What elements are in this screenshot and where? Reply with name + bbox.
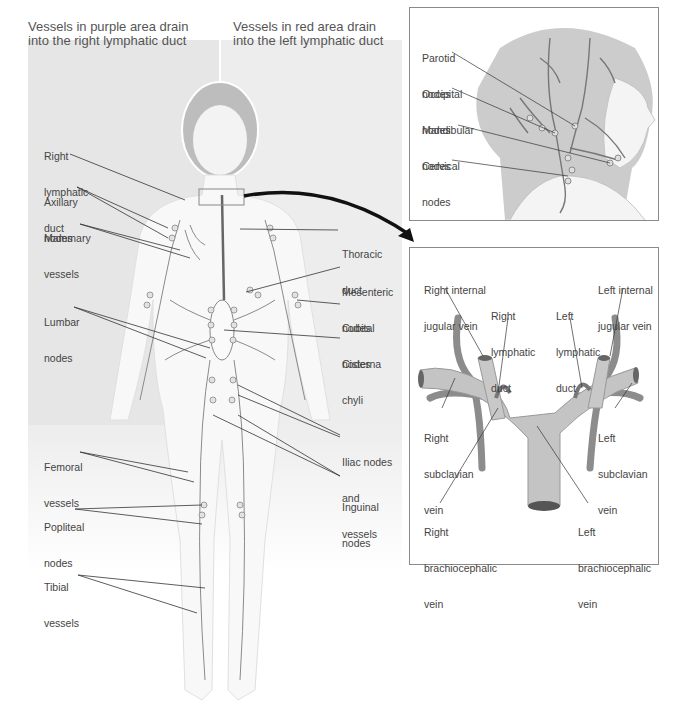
label-line: Mesenteric bbox=[342, 286, 393, 298]
label-line: chyli bbox=[342, 394, 381, 406]
label-right-internal-jugular-vein: Right internal jugular vein bbox=[424, 260, 486, 356]
label-line: Tibial bbox=[44, 581, 79, 593]
label-lumbar-nodes: Lumbar nodes bbox=[44, 292, 80, 376]
label-line: Popliteal bbox=[44, 521, 84, 533]
label-line: Cisterna bbox=[342, 358, 381, 370]
label-line: jugular vein bbox=[424, 320, 486, 332]
label-line: Inguinal bbox=[342, 501, 379, 513]
label-line: vein bbox=[578, 598, 651, 610]
label-line: Left bbox=[578, 526, 651, 538]
label-right-brachiocephalic-vein: Right brachiocephalic vein bbox=[424, 502, 497, 634]
label-line: subclavian bbox=[424, 468, 474, 480]
label-line: duct bbox=[491, 382, 535, 394]
label-line: jugular vein bbox=[598, 320, 653, 332]
label-cervical-nodes: Cervical nodes bbox=[422, 136, 460, 232]
label-line: vessels bbox=[44, 268, 91, 280]
label-line: vein bbox=[424, 598, 497, 610]
label-cisterna-chyli: Cisterna chyli bbox=[342, 334, 381, 418]
label-line: nodes bbox=[422, 196, 460, 208]
label-left-brachiocephalic-vein: Left brachiocephalic vein bbox=[578, 502, 651, 634]
label-line: nodes bbox=[44, 352, 80, 364]
vein-junction-panel: Right internal jugular vein Right lympha… bbox=[409, 247, 659, 565]
label-line: Cervical bbox=[422, 160, 460, 172]
label-line: Right bbox=[491, 310, 535, 322]
label-line: Left bbox=[598, 432, 648, 444]
label-line: Parotid bbox=[422, 52, 455, 64]
label-line: subclavian bbox=[598, 468, 648, 480]
head-nodes-panel: Parotid nodes Occipital nodes Mandibular… bbox=[409, 7, 659, 221]
label-line: Thoracic bbox=[342, 248, 382, 260]
label-line: vessels bbox=[44, 617, 79, 629]
label-line: Femoral bbox=[44, 461, 83, 473]
label-line: lymphatic bbox=[491, 346, 535, 358]
label-line: Right internal bbox=[424, 284, 486, 296]
label-line: duct bbox=[556, 382, 600, 394]
label-line: Left internal bbox=[598, 284, 653, 296]
label-line: Axillary bbox=[44, 196, 78, 208]
label-line: Occipital bbox=[422, 88, 462, 100]
label-line: Iliac nodes bbox=[342, 456, 392, 468]
label-line: nodes bbox=[342, 537, 379, 549]
label-right-lymphatic-duct-vein: Right lymphatic duct bbox=[491, 286, 535, 418]
label-line: brachiocephalic bbox=[424, 562, 497, 574]
label-line: Cubital bbox=[342, 322, 375, 334]
label-line: Mandibular bbox=[422, 124, 474, 136]
label-mammary-vessels: Mammary vessels bbox=[44, 208, 91, 292]
label-left-internal-jugular-vein: Left internal jugular vein bbox=[598, 260, 653, 356]
label-line: Left bbox=[556, 310, 600, 322]
label-tibial-vessels: Tibial vessels bbox=[44, 557, 79, 641]
label-line: Lumbar bbox=[44, 316, 80, 328]
label-inguinal-nodes: Inguinal nodes bbox=[342, 477, 379, 561]
label-line: brachiocephalic bbox=[578, 562, 651, 574]
label-line: lymphatic bbox=[556, 346, 600, 358]
label-line: Right bbox=[44, 150, 88, 162]
label-line: Right bbox=[424, 526, 497, 538]
label-line: Right bbox=[424, 432, 474, 444]
label-left-lymphatic-duct-vein: Left lymphatic duct bbox=[556, 286, 600, 418]
label-line: Mammary bbox=[44, 232, 91, 244]
